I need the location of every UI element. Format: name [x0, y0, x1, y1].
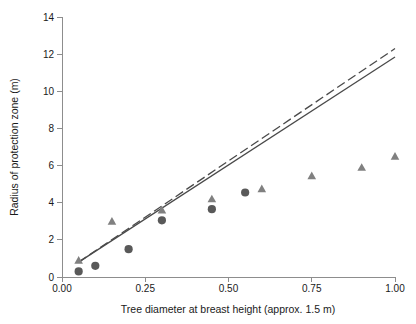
x-axis-title: Tree diameter at breast height (approx. … [121, 303, 335, 315]
y-tick-label: 10 [43, 86, 55, 97]
trendlines-group [79, 49, 395, 263]
x-tick-label: 0.25 [136, 283, 156, 294]
dashed-trendline [79, 49, 395, 263]
data-point-triangle [258, 184, 267, 192]
data-point-circle [75, 267, 83, 275]
x-tick-label: 0.75 [302, 283, 322, 294]
solid-trendline [79, 57, 395, 262]
data-point-circle [125, 245, 133, 253]
scatter-plot: 02468101214 0.000.250.500.751.00 Tree di… [0, 0, 416, 324]
data-point-circle [241, 188, 249, 196]
data-point-circle [208, 205, 216, 213]
y-axis-tick-marks [57, 17, 62, 277]
y-tick-label: 2 [48, 234, 54, 245]
circle-series [75, 188, 250, 275]
data-point-triangle [307, 171, 316, 179]
triangle-series [74, 152, 399, 264]
data-points-group [74, 152, 399, 276]
data-point-triangle [108, 217, 117, 225]
y-tick-label: 12 [43, 49, 55, 60]
data-point-triangle [391, 152, 400, 160]
data-point-triangle [208, 195, 217, 203]
x-axis-tick-labels: 0.000.250.500.751.00 [52, 283, 405, 294]
x-tick-label: 1.00 [385, 283, 405, 294]
x-tick-label: 0.00 [52, 283, 72, 294]
y-tick-label: 4 [48, 197, 54, 208]
y-axis-title: Radius of protection zone (m) [8, 78, 20, 216]
x-axis-tick-marks [62, 277, 395, 282]
y-tick-label: 0 [48, 272, 54, 283]
data-point-circle [158, 216, 166, 224]
chart-figure: 02468101214 0.000.250.500.751.00 Tree di… [0, 0, 416, 324]
y-tick-label: 14 [43, 12, 55, 23]
data-point-triangle [357, 163, 366, 171]
data-point-circle [91, 262, 99, 270]
x-tick-label: 0.50 [219, 283, 239, 294]
y-axis-tick-labels: 02468101214 [43, 12, 55, 283]
y-tick-label: 8 [48, 123, 54, 134]
y-tick-label: 6 [48, 160, 54, 171]
